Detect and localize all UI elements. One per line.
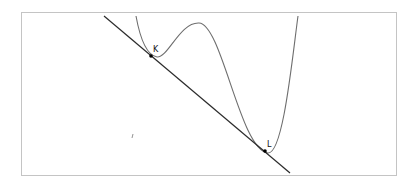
double-tangent-line	[104, 16, 290, 173]
stray-mark	[132, 134, 133, 138]
function-curve	[136, 16, 298, 153]
point-k-label: K	[153, 45, 159, 54]
point-k	[149, 54, 153, 58]
diagram-canvas: K L	[0, 0, 417, 185]
point-l-label: L	[267, 140, 272, 149]
point-l	[263, 149, 267, 153]
